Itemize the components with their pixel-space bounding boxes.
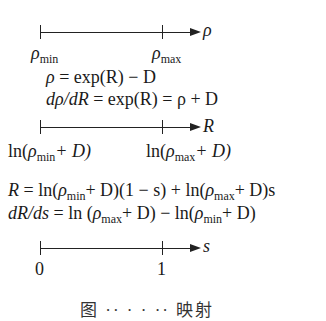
rho-axis-line <box>40 32 192 33</box>
s-zero-label: 0 <box>35 259 44 279</box>
s-arrow-icon <box>190 244 201 252</box>
rho-min-tick <box>40 25 41 39</box>
equation-R-of-s: R = ln(ρmin+ D)(1 − s) + ln(ρmax+ D)s <box>8 180 275 200</box>
s-one-label: 1 <box>157 259 166 279</box>
rho-axis-variable: ρ <box>203 20 212 40</box>
equation-dR-ds: dR/ds = ln (ρmax+ D) − ln(ρmin+ D) <box>8 203 256 223</box>
R-axis-variable: R <box>203 116 214 136</box>
rho-min-label: ρmin <box>31 43 58 63</box>
s-axis-line <box>40 248 192 249</box>
R-min-tick <box>40 120 41 134</box>
R-axis-line <box>40 127 192 128</box>
R-min-label: ln(ρmin+ D) <box>8 141 91 161</box>
R-arrow-icon <box>190 123 201 131</box>
s-axis-variable: s <box>203 236 210 256</box>
s-zero-tick <box>40 241 41 255</box>
rho-max-label: ρmax <box>152 43 181 63</box>
rho-arrow-icon <box>190 28 201 36</box>
rho-max-tick <box>162 25 163 39</box>
R-max-label: ln(ρmax+ D) <box>146 141 231 161</box>
equation-drho-dR: dρ/dR = exp(R) = ρ + D <box>46 89 218 109</box>
s-one-tick <box>162 241 163 255</box>
R-max-tick <box>162 120 163 134</box>
equation-rho-of-R: ρ = exp(R) − D <box>46 67 156 87</box>
figure-caption: 图 ·· · · ·· 映射 <box>80 296 214 321</box>
